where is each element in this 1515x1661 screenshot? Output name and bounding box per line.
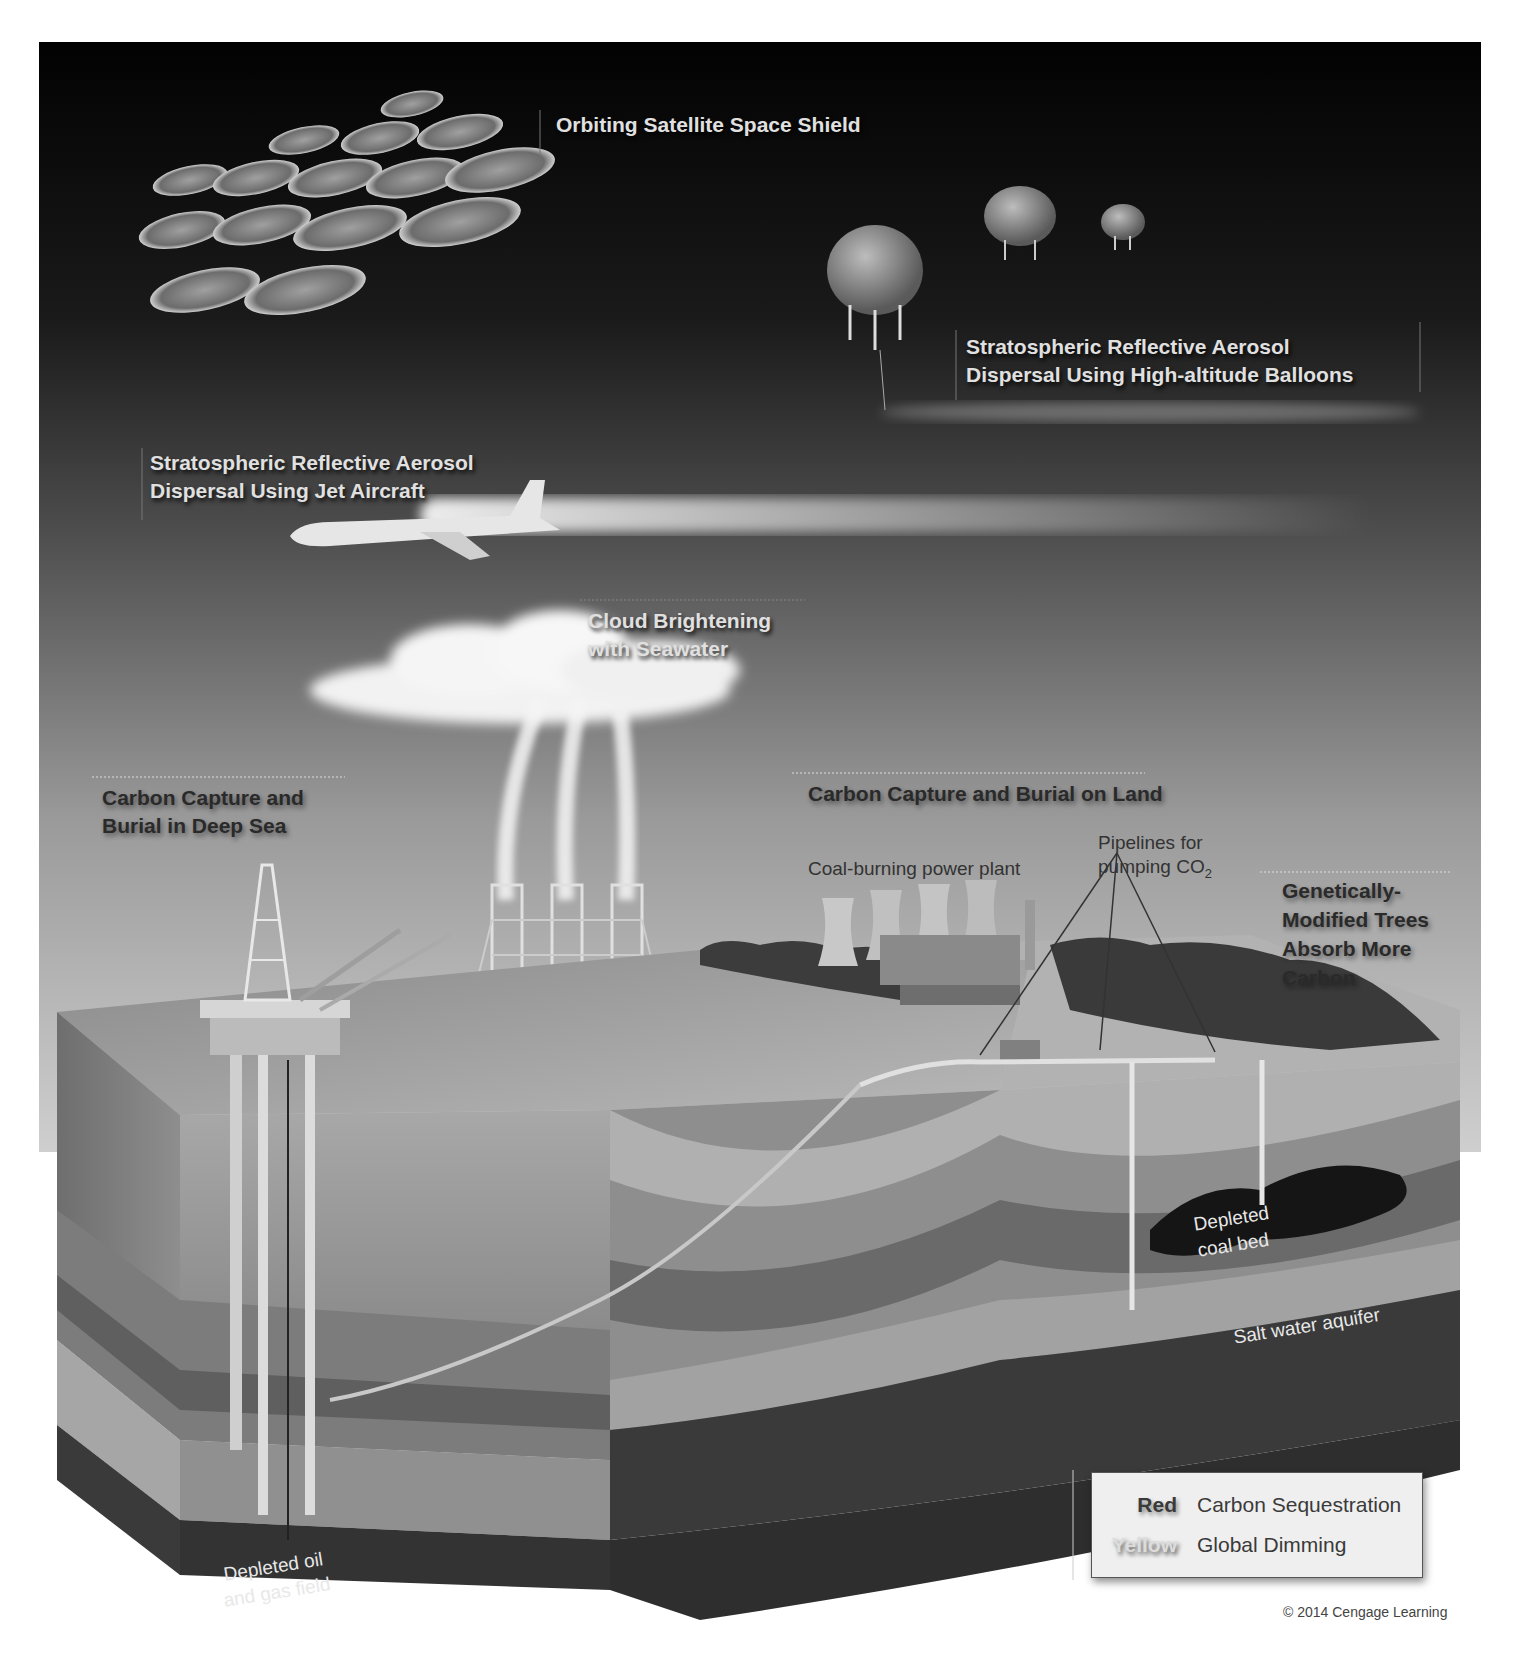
copyright-notice: © 2014 Cengage Learning bbox=[1283, 1604, 1447, 1620]
label-pipelines-line1: Pipelines for bbox=[1098, 832, 1203, 855]
geoengineering-diagram: Orbiting Satellite Space Shield Stratosp… bbox=[0, 0, 1515, 1661]
pipeline-icon bbox=[980, 1060, 1215, 1062]
label-trees-line4: Carbon bbox=[1282, 965, 1356, 990]
label-land-capture: Carbon Capture and Burial on Land bbox=[808, 781, 1163, 806]
co2-subscript: 2 bbox=[1205, 866, 1212, 881]
legend-text-yellow: Global Dimming bbox=[1197, 1533, 1346, 1557]
legend-key-red: Red bbox=[1092, 1493, 1197, 1517]
label-cloud-line2: with Seawater bbox=[588, 636, 728, 661]
pumping-station-icon bbox=[1000, 1040, 1040, 1060]
label-cloud-line1: Cloud Brightening bbox=[588, 608, 771, 633]
label-space-shield: Orbiting Satellite Space Shield bbox=[556, 112, 861, 137]
label-trees-line3: Absorb More bbox=[1282, 936, 1412, 961]
label-deep-sea-line2: Burial in Deep Sea bbox=[102, 813, 286, 838]
legend-text-red: Carbon Sequestration bbox=[1197, 1493, 1401, 1517]
legend: Red Carbon Sequestration Yellow Global D… bbox=[1091, 1472, 1423, 1578]
label-pipelines-line2: pumping CO2 bbox=[1098, 856, 1212, 881]
label-trees-line2: Modified Trees bbox=[1282, 907, 1429, 932]
legend-key-yellow: Yellow bbox=[1092, 1533, 1197, 1557]
legend-item-red: Red Carbon Sequestration bbox=[1092, 1485, 1422, 1525]
label-balloons-line1: Stratospheric Reflective Aerosol bbox=[966, 334, 1290, 359]
legend-item-yellow: Yellow Global Dimming bbox=[1092, 1525, 1422, 1565]
label-deep-sea-line1: Carbon Capture and bbox=[102, 785, 304, 810]
label-jet-line2: Dispersal Using Jet Aircraft bbox=[150, 478, 425, 503]
label-balloons-line2: Dispersal Using High-altitude Balloons bbox=[966, 362, 1353, 387]
label-jet-line1: Stratospheric Reflective Aerosol bbox=[150, 450, 474, 475]
label-trees-line1: Genetically- bbox=[1282, 878, 1401, 903]
label-power-plant: Coal-burning power plant bbox=[808, 858, 1020, 881]
pipelines-text: pumping CO bbox=[1098, 856, 1205, 877]
